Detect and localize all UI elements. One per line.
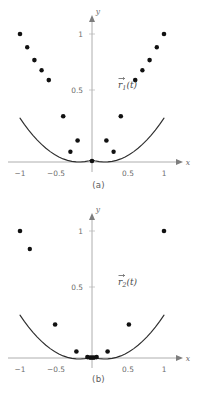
datapoint <box>18 229 23 234</box>
caption-a: (a) <box>0 180 197 190</box>
datapoint <box>61 114 66 119</box>
datapoint <box>68 150 72 154</box>
x-tick-label: 1 <box>162 365 167 374</box>
y-axis-label: y <box>95 7 101 16</box>
x-axis-label: x <box>186 158 191 167</box>
datapoint <box>53 322 58 327</box>
curve-label-arg-b: (t) <box>126 277 137 287</box>
datapoint <box>75 138 80 143</box>
curve-label-a: r1(t) <box>118 77 138 92</box>
datapoint <box>147 58 152 63</box>
y-tick-label: 1 <box>78 30 83 39</box>
curve-label-b: r2(t) <box>118 274 138 289</box>
x-axis-arrow-b <box>176 355 183 361</box>
y-axis-arrow-b <box>89 213 95 220</box>
panel-a: −1 −0.5 0.5 1 0.5 1 x y r1(t) (a) <box>0 0 197 198</box>
x-tick-label: −1 <box>15 365 26 374</box>
x-tick-label: 0.5 <box>122 169 134 178</box>
datapoint <box>105 349 110 354</box>
x-tick-label: 1 <box>162 169 167 178</box>
curve-label-text-a: r1(t) <box>118 80 138 92</box>
datapoint <box>155 45 159 49</box>
datapoint <box>90 159 95 164</box>
y-tick-label: 0.5 <box>71 86 83 95</box>
x-axis-arrow-a <box>176 159 183 165</box>
figure-stack: −1 −0.5 0.5 1 0.5 1 x y r1(t) (a) <box>0 0 197 395</box>
x-axis-label: x <box>186 354 191 363</box>
datapoint <box>47 78 52 83</box>
y-tick-label: 0.5 <box>71 283 83 292</box>
datapoint <box>94 355 99 360</box>
panel-b: −1 −0.5 0.5 1 0.5 1 x y r2(t) (b) <box>0 198 197 395</box>
y-axis-label: y <box>95 205 101 214</box>
datapoint <box>140 68 144 72</box>
datapoint <box>28 247 32 251</box>
x-tick-label: −1 <box>15 169 26 178</box>
datapoint <box>111 150 115 154</box>
curve-label-text-b: r2(t) <box>118 277 138 289</box>
datapoint <box>74 349 79 354</box>
y-axis-arrow-a <box>89 15 95 22</box>
datapoint <box>39 68 43 72</box>
datapoint <box>127 322 132 327</box>
datapoint <box>18 32 23 37</box>
datapoint <box>162 229 167 234</box>
x-tick-label: −0.5 <box>47 365 65 374</box>
datapoint <box>119 114 124 119</box>
caption-b: (b) <box>0 374 197 384</box>
datapoint <box>162 32 167 37</box>
x-tick-label: −0.5 <box>47 169 65 178</box>
datapoint <box>32 58 37 63</box>
datapoint <box>25 45 29 49</box>
datapoint <box>104 138 109 143</box>
y-tick-label: 1 <box>78 227 83 236</box>
x-tick-label: 0.5 <box>122 365 134 374</box>
plot-a: −1 −0.5 0.5 1 0.5 1 x y r1(t) <box>0 0 197 180</box>
plot-b: −1 −0.5 0.5 1 0.5 1 x y r2(t) <box>0 198 197 376</box>
curve-label-arg-a: (t) <box>126 80 137 90</box>
